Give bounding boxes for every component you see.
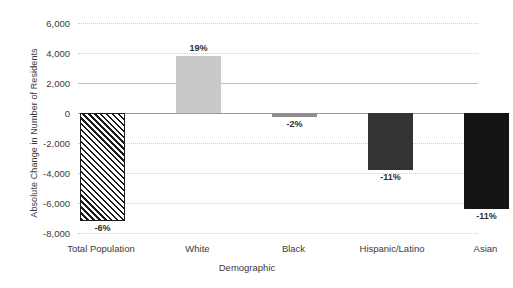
- bar-asian: [464, 113, 509, 209]
- bar-hispanic-latino: [368, 113, 413, 170]
- x-axis-title: Demographic: [0, 262, 494, 273]
- x-tick-label-total-population: Total Population: [56, 243, 146, 254]
- y-tick-label-4000: 4,000: [24, 48, 70, 59]
- gridline-4000: [78, 53, 478, 54]
- y-tick-label-neg2000: -2,000: [24, 138, 70, 149]
- gridline-6000: [78, 23, 478, 24]
- x-tick-label-white: White: [155, 243, 240, 254]
- y-tick-label-neg8000: -8,000: [24, 228, 70, 239]
- bar-label-asian: -11%: [464, 211, 509, 221]
- y-tick-label-2000: 2,000: [24, 78, 70, 89]
- gridline-neg6000: [78, 203, 478, 204]
- bar-black: [272, 113, 317, 117]
- bar-label-black: -2%: [272, 119, 317, 129]
- y-tick-label-neg6000: -6,000: [24, 198, 70, 209]
- y-tick-label-6000: 6,000: [24, 18, 70, 29]
- bar-white: [176, 56, 221, 113]
- gridline-neg2000: [78, 143, 478, 144]
- x-tick-label-asian: Asian: [443, 243, 513, 254]
- x-tick-label-hispanic-latino: Hispanic/Latino: [332, 243, 452, 254]
- gridline-2000: [78, 83, 478, 84]
- plot-area: -6% 19% -2% -11% -11%: [78, 18, 478, 238]
- gridline-neg8000: [78, 233, 478, 234]
- bar-label-hispanic-latino: -11%: [368, 172, 413, 182]
- bar-label-total-population: -6%: [80, 223, 125, 233]
- x-tick-label-black: Black: [251, 243, 336, 254]
- bar-label-white: 19%: [176, 43, 221, 53]
- y-tick-label-neg4000: -4,000: [24, 168, 70, 179]
- y-tick-label-0: 0: [24, 108, 70, 119]
- bar-total-population: [80, 113, 125, 221]
- gridline-neg4000: [78, 173, 478, 174]
